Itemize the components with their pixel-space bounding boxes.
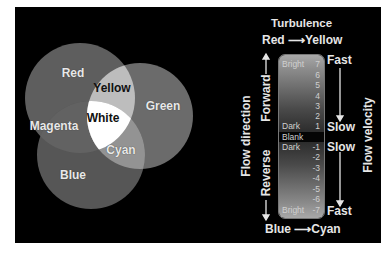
top-from: Red [262,33,285,47]
label-magenta: Magenta [30,119,79,133]
scale-row: -6 [279,194,324,205]
scale-row: Bright7 [279,59,324,70]
color-scale-bar: Bright7 6 5 4 3 2 Dark1 Blank Dark-1 -2 … [278,54,325,219]
velocity-arrows [333,66,347,208]
scale-row: 5 [279,80,324,91]
label-cyan: Cyan [106,143,135,157]
fast-top-label: Fast [327,53,352,67]
bottom-to: Cyan [311,222,340,236]
top-mapping: Red ⟶Yellow [262,33,342,47]
scale-row: Dark1 [279,121,324,132]
label-red: Red [62,66,85,80]
label-yellow: Yellow [93,81,130,95]
top-to: Yellow [305,33,342,47]
label-white: White [87,111,120,125]
direction-arrows [259,52,273,222]
bottom-mapping: Blue ⟶Cyan [265,222,341,236]
label-green: Green [146,99,181,113]
label-blue: Blue [60,168,86,182]
scale-row: -4 [279,173,324,184]
arrow-right-icon: ⟶ [294,222,311,236]
turbulence-title: Turbulence [271,17,332,29]
scale-row: Bright-7 [279,205,324,216]
bottom-from: Blue [265,222,291,236]
flow-velocity-label: Flow velocity [361,97,375,172]
scale-row: -2 [279,152,324,163]
flow-direction-label: Flow direction [239,95,253,176]
arrow-right-icon: ⟶ [288,33,305,47]
